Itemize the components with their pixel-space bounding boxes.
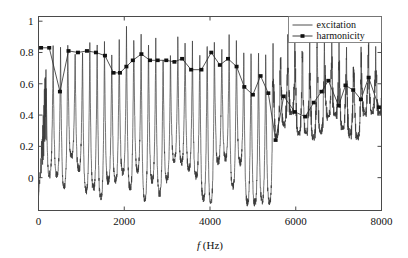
harmonicity-marker	[180, 57, 184, 61]
harmonicity-marker	[47, 46, 51, 50]
harmonicity-marker	[209, 51, 213, 55]
harmonicity-marker	[226, 57, 230, 61]
x-tick-label: 6000	[285, 215, 308, 227]
harmonicity-marker	[124, 65, 128, 69]
harmonicity-marker	[351, 88, 355, 92]
y-tick-label: 0.8	[20, 46, 34, 58]
x-tick-label: 4000	[199, 215, 222, 227]
harmonicity-marker	[266, 91, 270, 95]
harmonicity-marker	[112, 71, 116, 75]
harmonicity-marker	[76, 51, 80, 55]
harmonicity-marker	[377, 105, 381, 109]
harmonicity-marker	[282, 94, 286, 98]
harmonicity-marker	[131, 59, 135, 63]
harmonicity-marker	[164, 59, 168, 63]
harmonicity-marker	[218, 63, 222, 67]
harmonicity-marker	[58, 90, 62, 94]
y-tick-label: 0.4	[20, 109, 34, 121]
harmonicity-marker	[242, 85, 246, 89]
x-tick-label: 0	[36, 215, 42, 227]
harmonicity-marker	[172, 60, 176, 64]
chart-svg: excitationharmonicity 020004000600080000…	[0, 0, 408, 258]
harmonicity-marker	[156, 59, 160, 63]
harmonicity-marker	[337, 104, 341, 108]
x-tick-label: 2000	[113, 215, 136, 227]
y-tick-label: 0.6	[20, 78, 34, 90]
harmonicity-marker	[251, 93, 255, 97]
harmonicity-marker	[326, 79, 330, 83]
harmonicity-marker	[199, 68, 203, 72]
harmonicity-marker	[189, 68, 193, 72]
harmonicity-marker	[359, 98, 363, 102]
harmonicity-marker	[293, 110, 297, 114]
y-tick-label: 0	[28, 172, 34, 184]
harmonicity-marker	[343, 84, 347, 88]
y-tick-label: 1	[28, 15, 34, 27]
x-tick-label: 8000	[371, 215, 394, 227]
data-series-layer	[39, 26, 382, 206]
harmonicity-marker	[39, 46, 43, 50]
y-tick-label: 0.2	[20, 140, 34, 152]
harmonicity-marker	[85, 49, 89, 53]
harmonicity-marker	[319, 90, 323, 94]
series-harmonicity	[41, 48, 379, 140]
harmonicity-marker	[118, 71, 122, 75]
legend-label-excitation: excitation	[317, 19, 356, 30]
harmonicity-marker	[67, 49, 71, 53]
harmonicity-marker	[139, 52, 143, 56]
harmonicity-marker	[235, 65, 239, 69]
harmonicity-marker	[259, 74, 263, 78]
figure-container: excitationharmonicity 020004000600080000…	[0, 0, 408, 258]
harmonicity-marker	[312, 101, 316, 105]
harmonicity-marker	[148, 59, 152, 63]
harmonicity-marker	[94, 51, 98, 55]
x-axis-label: f (Hz)	[197, 239, 223, 252]
legend-marker-harmonicity	[301, 34, 305, 38]
harmonicity-marker	[303, 115, 307, 119]
harmonicity-marker	[367, 76, 371, 80]
harmonicity-marker	[103, 54, 107, 58]
chart-legend: excitationharmonicity	[289, 17, 382, 43]
legend-label-harmonicity: harmonicity	[317, 30, 365, 41]
harmonicity-marker	[274, 138, 278, 142]
